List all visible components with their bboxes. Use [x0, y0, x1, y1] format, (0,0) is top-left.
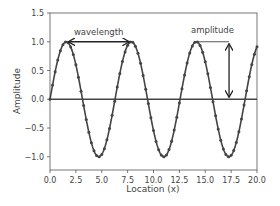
data-point-marker — [103, 147, 106, 150]
wavelength-label: wavelength — [74, 27, 124, 37]
x-tick-label: 5.0 — [95, 176, 108, 185]
y-tick-label: −1.0 — [25, 153, 44, 162]
data-point-marker — [105, 138, 108, 141]
data-point-marker — [230, 154, 233, 157]
data-point-marker — [69, 45, 72, 48]
data-point-marker — [77, 76, 80, 79]
data-point-marker — [144, 88, 147, 91]
data-point-marker — [237, 130, 240, 133]
data-point-marker — [118, 72, 121, 75]
x-tick-label: 17.5 — [222, 176, 240, 185]
plot-layer: 0.02.55.07.510.012.515.017.520.0−1.0−0.5… — [25, 9, 266, 185]
data-point-marker — [108, 127, 111, 130]
data-point-marker — [180, 87, 183, 90]
data-point-marker — [113, 100, 116, 103]
data-point-marker — [95, 154, 98, 157]
data-point-marker — [147, 102, 150, 105]
y-tick-label: 1.5 — [31, 9, 44, 18]
data-point-marker — [134, 45, 137, 48]
data-point-marker — [214, 114, 217, 117]
y-tick-label: 0.5 — [31, 67, 44, 76]
data-point-marker — [232, 149, 235, 152]
amplitude-label: amplitude — [191, 25, 234, 35]
data-point-marker — [90, 141, 93, 144]
data-point-marker — [227, 155, 230, 158]
data-point-marker — [85, 118, 88, 121]
data-point-marker — [49, 98, 52, 101]
data-point-marker — [248, 75, 251, 78]
data-point-marker — [152, 129, 155, 132]
data-point-marker — [111, 114, 114, 117]
data-point-marker — [82, 104, 85, 107]
data-point-marker — [206, 72, 209, 75]
x-tick-label: 0.0 — [44, 176, 57, 185]
y-tick-label: 0.0 — [31, 95, 44, 104]
data-point-marker — [245, 89, 248, 92]
data-point-marker — [243, 103, 246, 106]
y-axis-label: Amplitude — [12, 67, 22, 114]
data-point-marker — [253, 53, 256, 56]
data-point-marker — [173, 129, 176, 132]
data-point-marker — [98, 155, 101, 158]
x-tick-label: 15.0 — [196, 176, 214, 185]
data-point-marker — [126, 44, 129, 47]
data-point-marker — [72, 53, 75, 56]
data-point-marker — [256, 45, 259, 48]
data-point-marker — [142, 74, 145, 77]
data-point-marker — [165, 153, 168, 156]
data-point-marker — [74, 63, 77, 66]
data-point-marker — [116, 85, 119, 88]
data-point-marker — [224, 153, 227, 156]
data-point-marker — [87, 131, 90, 134]
data-point-marker — [56, 59, 59, 62]
data-point-marker — [212, 100, 215, 103]
data-point-marker — [139, 62, 142, 65]
data-point-marker — [183, 74, 186, 77]
data-point-marker — [61, 43, 64, 46]
data-point-marker — [80, 90, 83, 93]
data-point-marker — [157, 148, 160, 151]
data-point-marker — [54, 70, 57, 73]
data-point-marker — [92, 149, 95, 152]
data-point-marker — [59, 49, 62, 52]
data-point-marker — [201, 51, 204, 54]
data-point-marker — [51, 84, 54, 87]
data-point-marker — [149, 116, 152, 119]
x-tick-label: 20.0 — [248, 176, 266, 185]
data-point-marker — [155, 140, 158, 143]
data-point-marker — [100, 153, 103, 156]
y-tick-label: 1.0 — [31, 38, 44, 47]
data-point-marker — [219, 139, 222, 142]
data-point-marker — [235, 141, 238, 144]
x-axis-label: Location (x) — [126, 184, 179, 194]
data-point-marker — [162, 155, 165, 158]
data-point-marker — [217, 127, 220, 130]
x-tick-label: 2.5 — [70, 176, 83, 185]
data-point-marker — [193, 41, 196, 44]
data-point-marker — [64, 40, 67, 43]
sine-wave-chart: 0.02.55.07.510.012.515.017.520.0−1.0−0.5… — [0, 0, 280, 206]
data-point-marker — [170, 140, 173, 143]
data-point-marker — [121, 60, 124, 63]
data-point-marker — [131, 41, 134, 44]
data-point-marker — [250, 63, 253, 66]
data-point-marker — [191, 45, 194, 48]
y-tick-label: −0.5 — [25, 124, 44, 133]
data-point-marker — [240, 117, 243, 120]
data-point-marker — [136, 52, 139, 55]
data-point-marker — [186, 61, 189, 64]
data-point-marker — [124, 50, 127, 53]
data-point-marker — [209, 86, 212, 89]
data-point-marker — [160, 154, 163, 157]
data-point-marker — [199, 44, 202, 47]
data-point-marker — [168, 148, 171, 151]
data-point-marker — [222, 147, 225, 150]
data-point-marker — [178, 102, 181, 105]
data-point-marker — [175, 116, 178, 119]
data-point-marker — [204, 60, 207, 63]
data-point-marker — [188, 52, 191, 55]
